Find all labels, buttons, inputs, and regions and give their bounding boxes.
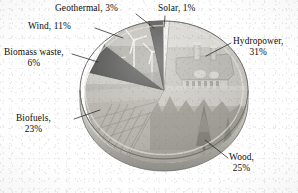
label-wind-text: Wind, 11% — [28, 21, 71, 31]
label-wind: Wind, 11% — [28, 21, 71, 32]
pie-chart-figure: Geothermal, 3% Solar, 1% Wind, 11% Hydro… — [0, 0, 298, 193]
label-biofuels-value: 23% — [16, 124, 51, 135]
label-geothermal: Geothermal, 3% — [55, 3, 118, 14]
label-biomass-waste: Biomass waste, 6% — [4, 47, 64, 69]
label-hydropower-value: 31% — [233, 47, 283, 58]
label-hydropower-name: Hydropower, — [233, 36, 283, 46]
label-wood: Wood, 25% — [229, 152, 254, 174]
label-biofuels-name: Biofuels, — [16, 113, 51, 123]
pie-gloss-overlay — [80, 21, 248, 159]
label-solar-text: Solar, 1% — [158, 3, 196, 13]
label-geothermal-text: Geothermal, 3% — [55, 3, 118, 13]
label-biofuels: Biofuels, 23% — [16, 113, 51, 135]
label-hydropower: Hydropower, 31% — [233, 36, 283, 58]
label-solar: Solar, 1% — [158, 3, 196, 14]
label-biomass-waste-value: 6% — [4, 58, 64, 69]
label-biomass-waste-name: Biomass waste, — [4, 47, 64, 57]
label-wood-value: 25% — [229, 163, 254, 174]
label-wood-name: Wood, — [229, 152, 254, 162]
